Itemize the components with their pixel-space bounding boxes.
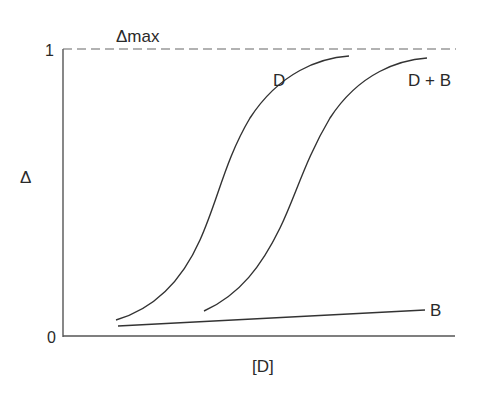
curve-d-label: D [273,71,285,90]
curve-d [116,56,349,320]
x-axis-label: [D] [252,357,274,376]
y-tick-0: 0 [47,329,56,346]
dose-response-chart: 1 0 Δ [D] Δmax D D + B B [0,0,486,399]
curve-d-plus-b-label: D + B [408,71,451,90]
max-label: Δmax [116,27,160,46]
line-b [118,310,425,326]
y-tick-1: 1 [45,42,54,59]
y-axis-label: Δ [20,168,31,187]
curve-d-plus-b [204,58,427,311]
curve-b-label: B [430,301,441,320]
